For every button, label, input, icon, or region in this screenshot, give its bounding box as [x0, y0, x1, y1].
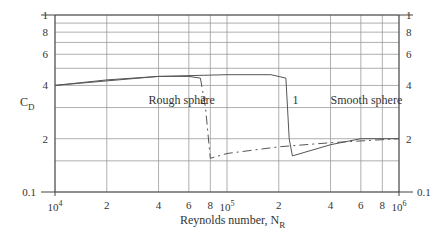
x-tick-label: 4: [328, 199, 334, 211]
tick-labels: 11886644220.10.110424681052468106: [22, 9, 431, 213]
y-axis-label: CD: [20, 95, 35, 112]
rough-sphere-curve-dashed: [200, 78, 399, 158]
y-tick-label-right: 6: [406, 48, 412, 60]
x-tick-label: 2: [104, 199, 110, 211]
y-tick-label-right: 2: [406, 133, 412, 145]
y-tick-label-right: 0.1: [417, 186, 431, 198]
y-tick-label-right: 8: [406, 26, 412, 38]
x-tick-label: 104: [48, 199, 63, 213]
y-tick-label-left: 2: [43, 133, 49, 145]
x-tick-label: 106: [392, 199, 407, 213]
y-tick-label-left: 4: [43, 79, 49, 91]
y-tick-label-left: 6: [43, 48, 49, 60]
y-tick-label-right: 4: [406, 79, 412, 91]
x-tick-label: 6: [358, 199, 364, 211]
annotation-label: 2: [200, 93, 206, 107]
x-tick-label: 2: [276, 199, 282, 211]
annotations: Rough sphere21Smooth sphere: [149, 93, 403, 107]
rough-sphere-curve-solid: [55, 76, 200, 85]
annotation-label: Smooth sphere: [331, 93, 403, 107]
annotation-label: 1: [292, 93, 298, 107]
y-tick-label-right: 1: [406, 9, 412, 21]
x-tick-label: 8: [208, 199, 214, 211]
x-tick-label: 105: [220, 199, 235, 213]
x-tick-label: 8: [380, 199, 386, 211]
x-tick-label: 6: [186, 199, 192, 211]
y-tick-label-left: 1: [43, 9, 49, 21]
y-tick-label-left: 0.1: [22, 186, 36, 198]
x-axis-label: Reynolds number, NR: [180, 213, 285, 230]
x-tick-label: 4: [156, 199, 162, 211]
y-tick-label-left: 8: [43, 26, 49, 38]
drag-coefficient-chart: 11886644220.10.110424681052468106 Rough …: [0, 0, 445, 241]
